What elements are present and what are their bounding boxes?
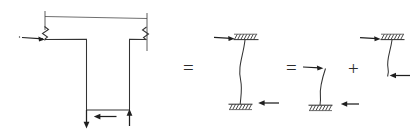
load-arrow-top-right [303,65,323,70]
plus-sign: + [348,59,359,78]
fixed-support-bottom [309,105,333,110]
load-arrow-bottom-left [390,73,410,78]
load-arrow-top-right [360,36,381,41]
load-arrow-bottom-left [341,101,359,106]
load-arrow-horizontal-base [94,114,117,120]
column-curve [320,69,326,106]
span-dimension-line [45,11,147,51]
load-arrow-vertical-up [127,109,133,126]
load-arrow-horizontal-left [19,36,45,41]
fixed-support-top [234,34,259,39]
column-curve [240,40,245,104]
figure-canvas: = = + [0,0,420,132]
panel-case-b [360,34,410,78]
load-arrow-top-right [214,36,235,41]
frame-outline [45,39,147,110]
spring-symbol-right [143,27,149,40]
equals-sign-1: = [183,58,194,77]
spring-symbol-left [43,27,49,40]
load-arrow-vertical-down [84,110,90,129]
fixed-support-top [381,34,405,39]
panel-deflected-column [214,34,279,109]
equals-sign-2: = [286,58,297,77]
column-curve [388,40,392,77]
load-arrow-bottom-left [258,100,279,105]
panel-t-shaped-frame [19,11,149,129]
fixed-support-bottom [229,104,253,109]
